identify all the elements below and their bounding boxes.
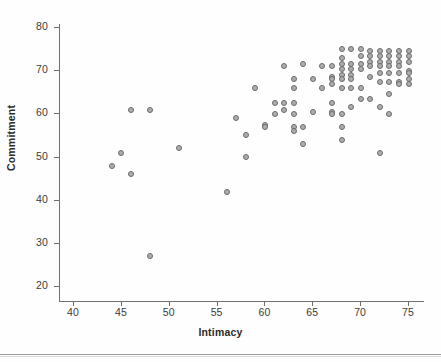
y-tick-mark <box>54 243 59 244</box>
data-point <box>339 66 345 72</box>
data-point <box>367 96 373 102</box>
data-point <box>339 137 345 143</box>
data-point <box>406 81 412 87</box>
data-point <box>386 79 392 85</box>
x-tick-label: 75 <box>393 306 423 318</box>
y-tick-mark <box>54 70 59 71</box>
data-point <box>224 189 230 195</box>
data-point <box>291 76 297 82</box>
data-point <box>377 150 383 156</box>
x-tick-label: 45 <box>106 306 136 318</box>
data-point <box>272 111 278 117</box>
data-point <box>272 100 278 106</box>
data-point <box>339 46 345 52</box>
data-point <box>377 53 383 59</box>
data-point <box>396 70 402 76</box>
data-point <box>406 59 412 65</box>
data-point <box>291 100 297 106</box>
data-point <box>310 109 316 115</box>
data-point <box>358 85 364 91</box>
x-tick-label: 50 <box>154 306 184 318</box>
x-tick-label: 70 <box>345 306 375 318</box>
data-point <box>396 53 402 59</box>
y-tick-mark <box>54 200 59 201</box>
x-tick-label: 65 <box>297 306 327 318</box>
y-tick-mark <box>54 157 59 158</box>
y-tick-mark <box>54 113 59 114</box>
data-point <box>339 76 345 82</box>
data-point <box>329 111 335 117</box>
y-axis-title: Commitment <box>5 83 17 193</box>
data-point <box>367 53 373 59</box>
y-tick-mark <box>54 286 59 287</box>
x-tick-label: 60 <box>249 306 279 318</box>
data-point <box>339 85 345 91</box>
x-tick-label: 40 <box>58 306 88 318</box>
data-point <box>406 53 412 59</box>
data-point <box>339 111 345 117</box>
data-point <box>109 163 115 169</box>
data-point <box>396 81 402 87</box>
x-tick-label: 55 <box>202 306 232 318</box>
data-point <box>291 128 297 134</box>
data-point <box>358 66 364 72</box>
data-point <box>377 70 383 76</box>
page-divider-rule-shadow <box>0 356 441 357</box>
data-point <box>358 53 364 59</box>
data-point <box>147 107 153 113</box>
data-point <box>339 124 345 130</box>
data-point <box>377 79 383 85</box>
y-tick-label: 70 <box>18 63 48 75</box>
data-point <box>243 154 249 160</box>
data-point <box>281 107 287 113</box>
y-axis-line <box>59 24 60 302</box>
y-tick-label: 50 <box>18 150 48 162</box>
y-tick-label: 80 <box>18 20 48 32</box>
y-tick-label: 40 <box>18 193 48 205</box>
data-point <box>291 85 297 91</box>
x-axis-line <box>59 301 424 302</box>
y-tick-mark <box>54 27 59 28</box>
data-point <box>291 111 297 117</box>
data-point <box>348 66 354 72</box>
y-tick-label: 60 <box>18 106 48 118</box>
data-point <box>128 107 134 113</box>
data-point <box>358 96 364 102</box>
page-divider-rule <box>0 354 441 355</box>
data-point <box>329 81 335 87</box>
data-point <box>329 100 335 106</box>
data-point <box>300 124 306 130</box>
figure-canvas: 20304050607080 4045505560657075 Commitme… <box>0 0 441 362</box>
data-point <box>262 124 268 130</box>
data-point <box>358 46 364 52</box>
data-point <box>406 70 412 76</box>
y-tick-label: 20 <box>18 279 48 291</box>
data-point <box>348 85 354 91</box>
y-tick-label: 30 <box>18 236 48 248</box>
x-axis-title: Intimacy <box>0 326 441 338</box>
data-point <box>339 55 345 61</box>
